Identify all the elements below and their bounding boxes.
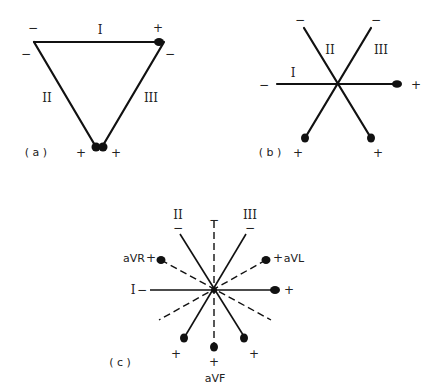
panel-a-caption: ( a )	[25, 146, 47, 159]
center-point	[211, 287, 217, 293]
lead-iii-label: III	[243, 208, 257, 222]
lead-iii-positive-electrode-dot	[180, 334, 188, 343]
lead-i-positive-sign: +	[153, 21, 163, 35]
lead-avr-positive-sign: +	[146, 251, 156, 265]
lead-iii-negative-sign: −	[371, 13, 381, 27]
lead-iii-label: III	[144, 91, 158, 105]
lead-iii-positive-electrode-dot	[301, 134, 309, 143]
lead-iii-negative-sign: −	[245, 221, 255, 235]
lead-iii-negative-sign: −	[165, 47, 175, 61]
lead-ii-positive-electrode-dot	[240, 334, 248, 343]
lead-ii-label: II	[42, 91, 52, 105]
lead-avl-positive-sign: +	[273, 251, 283, 265]
lead-i-label: I	[98, 23, 103, 37]
lead-avl-positive-electrode-dot	[262, 256, 271, 264]
lead-ii-negative-sign: −	[173, 221, 183, 235]
lead-iii-line	[184, 234, 246, 338]
lead-ii-positive-electrode-dot	[367, 134, 375, 143]
lead-i-negative-sign: −	[28, 21, 38, 35]
lead-i-positive-sign: +	[411, 78, 421, 92]
lead-axis-diagram: − I + − II + − III + ( a ) − I + − II + …	[0, 0, 439, 388]
lead-avr-positive-electrode-dot	[157, 256, 166, 264]
lead-ii-positive-sign: +	[373, 146, 383, 160]
lead-avr-label: aVR	[123, 252, 145, 265]
lead-avf-positive-sign: +	[209, 355, 219, 369]
lead-avf-label: aVF	[205, 372, 226, 385]
lead-i-negative-sign: −	[259, 78, 269, 92]
lead-i-negative-sign: −	[137, 283, 147, 297]
lead-ii-label: II	[325, 43, 335, 57]
lead-i-label: I	[291, 66, 296, 80]
lead-iii-positive-sign: +	[111, 146, 121, 160]
lead-ii-negative-sign: −	[21, 47, 31, 61]
lead-i-positive-electrode-dot	[392, 80, 402, 88]
lead-ii-positive-sign: +	[76, 146, 86, 160]
lead-avf-negative-sign: −	[209, 213, 219, 227]
lead-ii-negative-sign: −	[295, 13, 305, 27]
lead-i-positive-electrode-dot	[270, 286, 280, 294]
lead-ii-label: II	[173, 208, 183, 222]
panel-a-einthoven-triangle: − I + − II + − III + ( a )	[21, 21, 175, 160]
lead-iii-positive-sign: +	[171, 347, 181, 361]
lead-avf-positive-electrode-dot	[210, 343, 218, 352]
lead-iii-positive-electrode-dot	[99, 143, 108, 152]
panel-c-hexaxial-system: II − − III − aVR + + aVL I − + + + + aVF…	[109, 208, 305, 385]
lead-iii-positive-sign: +	[293, 146, 303, 160]
lead-i-positive-sign: +	[284, 283, 294, 297]
lead-iii-label: III	[374, 43, 388, 57]
lead-ii-positive-sign: +	[249, 347, 259, 361]
panel-c-caption: ( c )	[109, 356, 131, 369]
panel-b-caption: ( b )	[259, 146, 282, 159]
lead-i-positive-electrode-dot	[154, 38, 164, 46]
lead-ii-line	[180, 234, 245, 338]
panel-b-triaxial-system: − I + − II + − III + ( b )	[259, 13, 421, 160]
lead-i-label: I	[131, 283, 136, 297]
lead-avl-label: aVL	[284, 252, 305, 265]
